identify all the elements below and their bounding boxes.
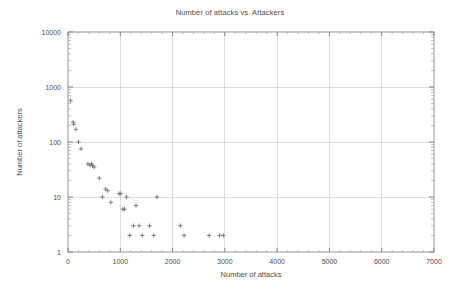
x-tick-label: 7000 [426,258,442,265]
data-point-marker [97,176,101,180]
data-points [68,99,225,238]
y-axis-tick-labels: 110100100010000 [42,29,62,256]
grid-lines [68,32,434,252]
data-point-marker [76,140,80,144]
x-tick-label: 0 [66,258,70,265]
x-tick-label: 3000 [217,258,233,265]
data-point-marker [140,233,144,237]
x-tick-label: 6000 [374,258,390,265]
x-axis-tick-labels: 01000200030004000500060007000 [66,258,442,265]
data-point-marker [134,203,138,207]
data-point-marker [127,233,131,237]
y-tick-label: 10 [53,194,61,201]
data-point-marker [178,224,182,228]
y-tick-label: 10000 [42,29,62,36]
data-point-marker [137,224,141,228]
data-point-marker [147,224,151,228]
data-point-marker [71,120,75,124]
x-axis-title: Number of attacks [221,270,282,279]
x-tick-label: 5000 [322,258,338,265]
y-tick-label: 1000 [45,84,61,91]
chart-container: Number of attacks vs. Attackers 01000200… [0,0,460,290]
y-tick-label: 100 [49,139,61,146]
data-point-marker [124,195,128,199]
data-point-marker [152,233,156,237]
data-point-marker [131,224,135,228]
data-point-marker [74,127,78,131]
data-point-marker [72,122,76,126]
y-tick-label: 1 [57,249,61,256]
data-point-marker [109,200,113,204]
data-point-marker [79,147,83,151]
data-point-marker [100,195,104,199]
x-tick-label: 2000 [165,258,181,265]
data-point-marker [182,233,186,237]
x-tick-label: 1000 [112,258,128,265]
data-point-marker [207,233,211,237]
scatter-plot: 01000200030004000500060007000 1101001000… [0,0,460,290]
data-point-marker [155,195,159,199]
y-axis-title: Number of attackers [15,108,24,176]
x-tick-label: 4000 [269,258,285,265]
